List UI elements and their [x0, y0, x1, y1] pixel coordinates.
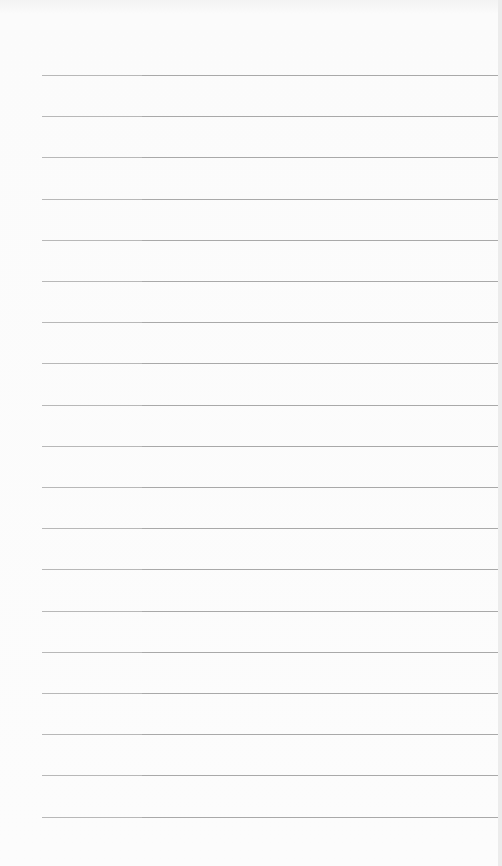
ruled-line	[42, 75, 500, 76]
ruled-line	[42, 569, 500, 570]
ruled-line	[42, 487, 500, 488]
ruled-line	[42, 775, 500, 776]
lined-paper	[0, 0, 502, 866]
ruled-line	[42, 240, 500, 241]
ruled-line	[42, 116, 500, 117]
ruled-line	[42, 281, 500, 282]
ruled-line	[42, 363, 500, 364]
ruled-line	[42, 322, 500, 323]
ruled-line	[42, 405, 500, 406]
ruled-line	[42, 446, 500, 447]
ruled-line	[42, 734, 500, 735]
ruled-line	[42, 199, 500, 200]
ruled-line	[42, 528, 500, 529]
ruled-line	[42, 817, 500, 818]
ruled-line	[42, 611, 500, 612]
ruled-line	[42, 693, 500, 694]
ruled-line	[42, 652, 500, 653]
paper-right-edge	[498, 0, 502, 866]
ruled-line	[42, 157, 500, 158]
